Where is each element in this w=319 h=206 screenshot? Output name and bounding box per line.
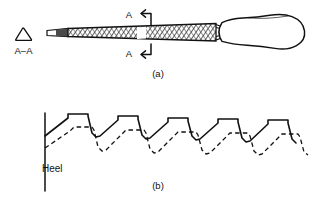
- file-handle: [219, 14, 305, 49]
- technical-figure: A–A: [0, 0, 319, 206]
- panel-b-caption: (b): [152, 180, 164, 191]
- section-symbol-label: A–A: [15, 45, 34, 56]
- section-arrow-bottom-icon: [141, 44, 151, 58]
- tang-tip: [47, 28, 69, 37]
- profile-dashed-line: [45, 127, 308, 155]
- figure-root: A–A: [0, 0, 319, 206]
- section-mark-bottom: A: [126, 44, 151, 59]
- section-mark-top: A: [126, 9, 151, 26]
- section-gap: [137, 27, 146, 39]
- panel-b: Heel (b): [42, 113, 308, 191]
- triangle-cross-section-icon: [16, 28, 32, 40]
- panel-a-caption: (a): [152, 68, 164, 79]
- section-mark-bottom-label: A: [126, 48, 133, 59]
- section-arrow-top-icon: [141, 10, 151, 26]
- section-mark-top-label: A: [126, 9, 133, 20]
- file-blade: [68, 23, 218, 42]
- heel-label: Heel: [42, 163, 63, 174]
- panel-a: A–A: [15, 9, 305, 79]
